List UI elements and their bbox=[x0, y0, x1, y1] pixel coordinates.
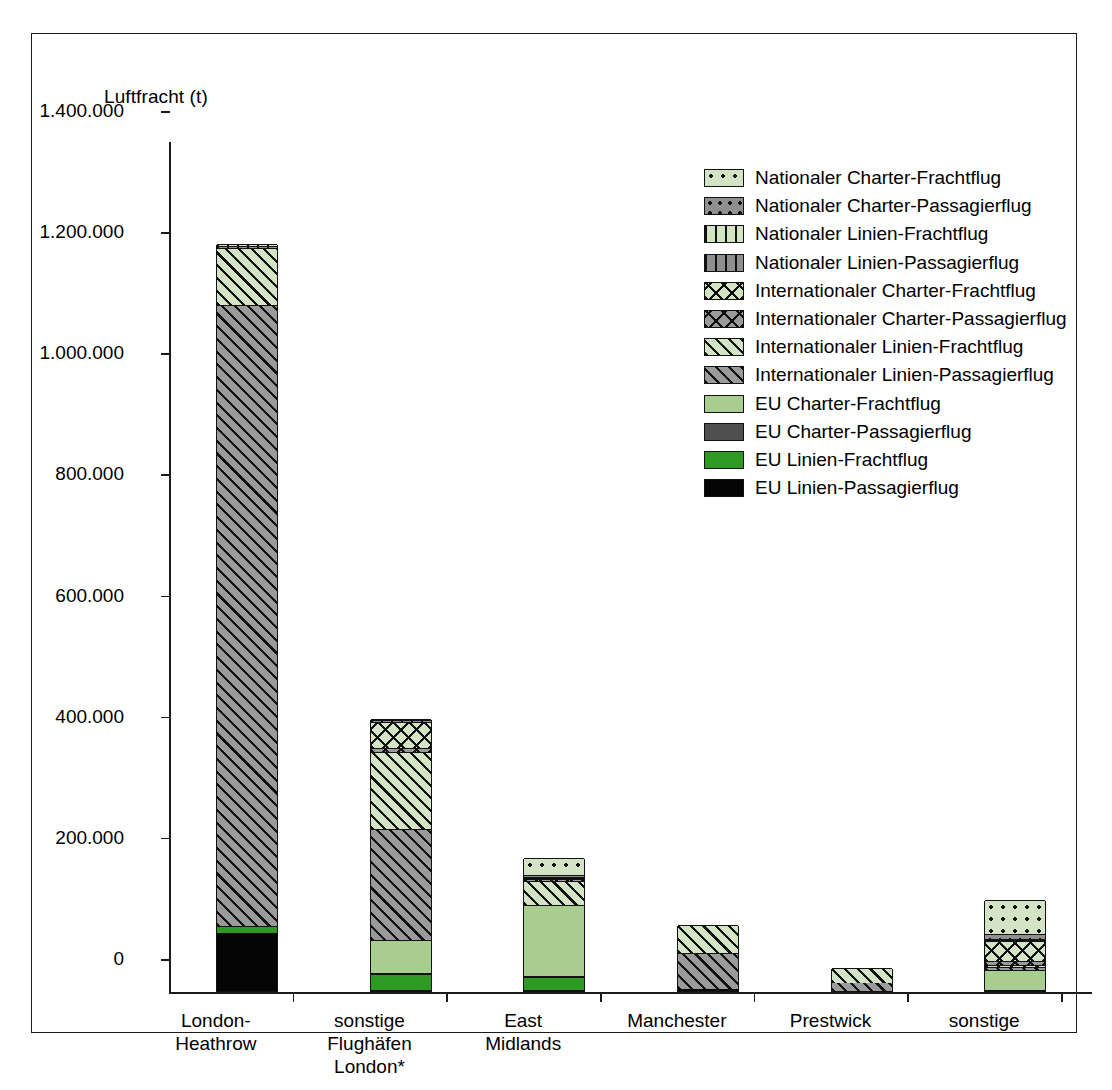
y-tick-mark bbox=[161, 111, 170, 113]
bar-segment bbox=[217, 933, 277, 991]
bar-segment bbox=[371, 722, 431, 747]
x-axis-label: sonstige bbox=[949, 1009, 1020, 1032]
y-tick-label: 1.200.000 bbox=[39, 221, 124, 243]
x-axis-label: EastMidlands bbox=[485, 1009, 561, 1055]
legend-swatch-icon bbox=[704, 366, 744, 384]
legend-item: EU Charter-Frachtflug bbox=[704, 390, 1067, 418]
legend-label: Internationaler Linien-Frachtflug bbox=[755, 336, 1023, 358]
bar-segment bbox=[832, 983, 892, 991]
bar-segment bbox=[371, 990, 431, 991]
bar-segment bbox=[217, 248, 277, 305]
legend-label: Internationaler Linien-Passagierflug bbox=[755, 364, 1054, 386]
legend-item: Nationaler Linien-Passagierflug bbox=[704, 249, 1067, 277]
bar-segment bbox=[371, 829, 431, 940]
bar-segment bbox=[678, 989, 738, 991]
bar-segment bbox=[985, 965, 1045, 967]
bar-segment bbox=[985, 990, 1045, 991]
y-tick-mark bbox=[161, 717, 170, 719]
legend-label: Nationaler Linien-Frachtflug bbox=[755, 223, 988, 245]
bar-segment bbox=[217, 926, 277, 933]
legend-label: EU Charter-Passagierflug bbox=[755, 421, 971, 443]
bar-segment bbox=[524, 990, 584, 991]
chart-frame: Luftfracht (t) 1.400.0001.200.0001.000.0… bbox=[31, 33, 1077, 1033]
bar-segment bbox=[524, 879, 584, 881]
x-axis-label: London-Heathrow bbox=[175, 1009, 256, 1055]
chart-legend: Nationaler Charter-FrachtflugNationaler … bbox=[704, 164, 1067, 502]
x-axis-label: sonstigeFlughäfenLondon* bbox=[327, 1009, 412, 1078]
bar-6 bbox=[984, 901, 1046, 992]
legend-swatch-icon bbox=[704, 451, 744, 469]
y-tick-mark bbox=[161, 353, 170, 355]
legend-swatch-icon bbox=[704, 479, 744, 497]
y-tick-label: 600.000 bbox=[55, 585, 124, 607]
legend-swatch-icon bbox=[704, 310, 744, 328]
bar-segment bbox=[524, 878, 584, 879]
legend-swatch-icon bbox=[704, 338, 744, 356]
legend-item: EU Linien-Frachtflug bbox=[704, 446, 1067, 474]
bar-segment bbox=[985, 961, 1045, 965]
legend-label: Nationaler Charter-Frachtflug bbox=[755, 167, 1001, 189]
bar-2 bbox=[370, 720, 432, 992]
bar-segment bbox=[985, 967, 1045, 971]
bar-5 bbox=[831, 969, 893, 992]
legend-swatch-icon bbox=[704, 254, 744, 272]
legend-label: Nationaler Linien-Passagierflug bbox=[755, 252, 1019, 274]
bar-segment bbox=[524, 875, 584, 876]
y-tick-label: 400.000 bbox=[55, 706, 124, 728]
legend-label: EU Charter-Frachtflug bbox=[755, 393, 941, 415]
bar-segment bbox=[985, 934, 1045, 939]
legend-item: Nationaler Charter-Frachtflug bbox=[704, 164, 1067, 192]
y-tick-mark bbox=[161, 232, 170, 234]
x-tick-mark bbox=[754, 992, 756, 1002]
bar-segment bbox=[371, 974, 431, 990]
y-tick-label: 1.400.000 bbox=[39, 100, 124, 122]
bar-1 bbox=[216, 245, 278, 992]
y-tick-label: 1.000.000 bbox=[39, 342, 124, 364]
x-tick-mark bbox=[293, 992, 295, 1002]
y-tick-mark bbox=[161, 596, 170, 598]
bar-segment bbox=[217, 244, 277, 246]
legend-swatch-icon bbox=[704, 282, 744, 300]
legend-item: Internationaler Charter-Passagierflug bbox=[704, 305, 1067, 333]
legend-item: EU Linien-Passagierflug bbox=[704, 474, 1067, 502]
y-tick-label: 0 bbox=[113, 948, 124, 970]
y-tick-mark bbox=[161, 474, 170, 476]
bar-3 bbox=[523, 859, 585, 992]
x-tick-mark bbox=[446, 992, 448, 1002]
legend-item: Internationaler Linien-Passagierflug bbox=[704, 361, 1067, 389]
legend-item: Internationaler Charter-Frachtflug bbox=[704, 277, 1067, 305]
y-tick-label: 800.000 bbox=[55, 463, 124, 485]
chart-page: Luftfracht (t) 1.400.0001.200.0001.000.0… bbox=[0, 0, 1112, 1090]
legend-label: Nationaler Charter-Passagierflug bbox=[755, 195, 1032, 217]
y-tick-label: 200.000 bbox=[55, 827, 124, 849]
legend-swatch-icon bbox=[704, 395, 744, 413]
legend-label: Internationaler Charter-Passagierflug bbox=[755, 308, 1067, 330]
x-tick-mark bbox=[1061, 992, 1063, 1002]
legend-item: EU Charter-Passagierflug bbox=[704, 418, 1067, 446]
bar-segment bbox=[985, 941, 1045, 961]
legend-item: Nationaler Linien-Frachtflug bbox=[704, 220, 1067, 248]
y-tick-mark bbox=[161, 959, 170, 961]
bar-segment bbox=[371, 748, 431, 753]
x-axis-label: Prestwick bbox=[790, 1009, 871, 1032]
legend-label: EU Linien-Passagierflug bbox=[755, 477, 959, 499]
x-axis-line bbox=[169, 992, 1092, 994]
legend-swatch-icon bbox=[704, 423, 744, 441]
legend-item: Nationaler Charter-Passagierflug bbox=[704, 192, 1067, 220]
bar-segment bbox=[678, 953, 738, 989]
bar-segment bbox=[524, 858, 584, 875]
bar-segment bbox=[524, 905, 584, 976]
bar-segment bbox=[524, 977, 584, 990]
bar-segment bbox=[524, 881, 584, 905]
y-tick-mark bbox=[161, 838, 170, 840]
legend-swatch-icon bbox=[704, 197, 744, 215]
bar-segment bbox=[985, 900, 1045, 934]
bar-segment bbox=[985, 970, 1045, 989]
bar-segment bbox=[371, 719, 431, 720]
bar-segment bbox=[371, 752, 431, 828]
x-tick-mark bbox=[907, 992, 909, 1002]
bar-segment bbox=[371, 940, 431, 974]
legend-item: Internationaler Linien-Frachtflug bbox=[704, 333, 1067, 361]
legend-swatch-icon bbox=[704, 225, 744, 243]
x-tick-mark bbox=[600, 992, 602, 1002]
